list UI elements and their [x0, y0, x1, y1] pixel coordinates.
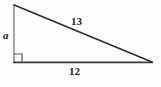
horizontal-leg-length-label: 12: [69, 66, 80, 77]
right-angle-marker-icon: [14, 54, 22, 62]
vertical-leg-variable-label: a: [3, 30, 9, 41]
triangle-drawing: [0, 0, 161, 87]
hypotenuse-length-label: 13: [71, 16, 82, 27]
right-triangle-figure: 13 12 a: [0, 0, 161, 87]
hypotenuse-line: [14, 5, 152, 62]
